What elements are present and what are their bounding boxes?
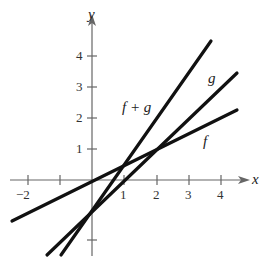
x-tick-label: 2 <box>153 188 160 201</box>
series-label-f: f <box>203 134 207 149</box>
x-axis-label: x <box>252 172 259 187</box>
function-graph <box>0 0 268 264</box>
y-tick-label: 3 <box>76 80 83 93</box>
series-label-g: g <box>208 71 216 86</box>
x-tick-label: 4 <box>217 188 224 201</box>
x-tick-label: 1 <box>120 188 127 201</box>
series-label-f-plus-g: f + g <box>122 100 151 115</box>
y-tick-label: 4 <box>76 49 83 62</box>
y-tick-label: 2 <box>76 111 83 124</box>
x-tick-label: −2 <box>16 188 30 201</box>
cropped-top-text <box>8 0 12 9</box>
x-tick-label: 3 <box>185 188 192 201</box>
line-f-plus-g <box>61 41 211 255</box>
y-axis-label: y <box>88 7 95 22</box>
y-tick-label: 1 <box>76 142 83 155</box>
